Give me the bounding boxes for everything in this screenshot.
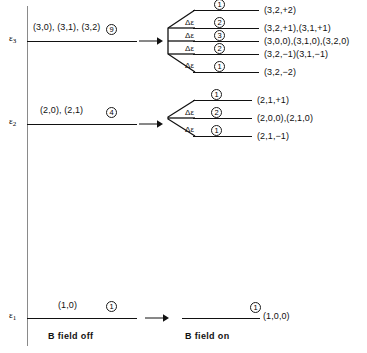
level-line-epsilon-1 [27, 318, 137, 319]
split-line-epsilon-3-3 [193, 41, 259, 42]
axis-label-epsilon-3: ε3 [9, 33, 16, 45]
epsilon-subscript: 1 [13, 314, 17, 322]
split-states-3-3: (3,0,0),(3,1,0),(3,2,0) [264, 36, 349, 46]
split-degeneracy-3-1: 1 [214, 0, 225, 10]
delta-epsilon-label-3-2: Δε [185, 18, 194, 28]
split-line-epsilon-2-1 [193, 100, 252, 101]
epsilon-subscript: 3 [13, 37, 17, 45]
caption-b-field-on: B field on [185, 331, 230, 341]
level-line-epsilon-3 [27, 41, 137, 42]
delta-epsilon-label-2-2: Δε [185, 108, 194, 118]
split-states-2-3: (2,1,−1) [257, 131, 289, 141]
split-states-3-4: (3,2,−1)(3,1,−1) [264, 49, 328, 59]
zeeman-splitting-diagram: ε3 (3,0), (3,1), (3,2) 9 Δε Δε Δε Δε 1 2… [0, 0, 367, 353]
delta-epsilon-label-3-5: Δε [185, 61, 194, 71]
epsilon-3-degeneracy-badge: 9 [106, 24, 117, 35]
delta-epsilon-label-2-3: Δε [185, 125, 194, 135]
split-degeneracy-2-3: 1 [211, 125, 222, 136]
transition-arrow-epsilon-3 [139, 34, 163, 48]
transition-arrow-epsilon-2 [139, 117, 163, 131]
split-line-epsilon-3-5 [193, 72, 259, 73]
axis-label-epsilon-1: ε1 [9, 310, 16, 322]
epsilon-subscript: 2 [13, 120, 17, 128]
split-degeneracy-2-2: 2 [211, 107, 222, 118]
split-degeneracy-3-2: 2 [214, 17, 225, 28]
split-line-epsilon-1-1 [182, 318, 260, 319]
split-states-3-1: (3,2,+2) [264, 5, 296, 15]
split-states-3-5: (3,2,−2) [264, 67, 296, 77]
split-line-epsilon-3-1 [193, 10, 259, 11]
split-degeneracy-3-5: 1 [214, 61, 225, 72]
split-degeneracy-3-4: 2 [214, 43, 225, 54]
delta-epsilon-label-3-4: Δε [185, 44, 194, 54]
split-line-epsilon-3-4 [193, 54, 259, 55]
split-states-2-2: (2,0,0),(2,1,0) [257, 113, 313, 123]
epsilon-1-degeneracy-badge: 1 [106, 301, 117, 312]
split-degeneracy-3-3: 3 [214, 30, 225, 41]
energy-axis [27, 6, 28, 346]
split-line-epsilon-3-2 [193, 28, 259, 29]
level-line-epsilon-2 [27, 124, 137, 125]
epsilon-2-unsplit-states: (2,0), (2,1) [40, 105, 83, 115]
caption-b-field-off: B field off [48, 331, 93, 341]
epsilon-2-degeneracy-badge: 4 [106, 107, 117, 118]
split-line-epsilon-2-2 [193, 118, 252, 119]
split-states-1-1: (1,0,0) [263, 311, 290, 321]
split-degeneracy-1-1: 1 [250, 302, 261, 313]
epsilon-1-unsplit-states: (1,0) [58, 300, 77, 310]
split-states-3-2: (3,2,+1),(3,1,+1) [264, 23, 331, 33]
split-states-2-1: (2,1,+1) [257, 95, 289, 105]
split-degeneracy-2-1: 1 [211, 89, 222, 100]
axis-label-epsilon-2: ε2 [9, 116, 16, 128]
transition-arrow-epsilon-1 [145, 311, 169, 325]
epsilon-3-unsplit-states: (3,0), (3,1), (3,2) [33, 22, 100, 32]
delta-epsilon-label-3-3: Δε [185, 31, 194, 41]
split-line-epsilon-2-3 [193, 136, 252, 137]
